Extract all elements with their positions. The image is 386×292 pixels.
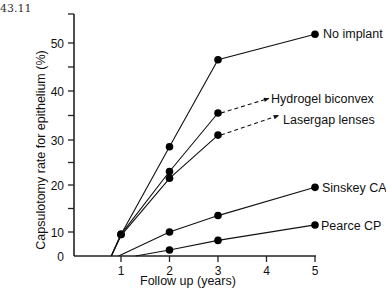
series-hydrogel-biconvex	[111, 98, 269, 256]
data-point-marker	[214, 109, 222, 117]
x-tick-label: 5	[312, 264, 319, 278]
data-point-marker	[166, 174, 174, 182]
x-axis-title: Follow up (years)	[140, 274, 236, 288]
projection-arrow	[221, 98, 269, 113]
data-point-marker	[166, 168, 174, 176]
y-tick-label: 50	[51, 37, 65, 51]
series-label-lasergap-lenses: Lasergap lenses	[283, 113, 375, 127]
y-tick-label: 0	[57, 250, 64, 264]
x-tick-label: 1	[118, 264, 125, 278]
series-labels: No implantHydrogel biconvexLasergap lens…	[271, 27, 386, 233]
data-point-marker	[214, 237, 222, 245]
series-line	[119, 187, 315, 256]
series-pearce-cp	[136, 221, 319, 256]
data-point-marker	[166, 143, 174, 151]
series-label-no-implant: No implant	[323, 27, 383, 41]
data-point-marker	[214, 212, 222, 220]
projection-arrow	[221, 116, 279, 136]
y-tick-label: 20	[51, 179, 65, 193]
series-line	[136, 225, 315, 256]
x-tick-label: 4	[263, 264, 270, 278]
series-sinskey-ca	[119, 184, 319, 256]
line-chart: 0102030405012345 No implantHydrogel bico…	[0, 0, 386, 292]
data-point-marker	[214, 56, 222, 64]
series-label-sinskey-ca: Sinskey CA	[322, 181, 386, 195]
series-no-implant	[111, 31, 319, 257]
y-tick-label: 10	[51, 226, 65, 240]
series-label-hydrogel-biconvex: Hydrogel biconvex	[271, 92, 375, 106]
y-tick-label: 40	[51, 85, 65, 99]
data-point-marker	[311, 31, 319, 39]
data-point-marker	[311, 184, 319, 192]
data-point-marker	[311, 221, 319, 229]
series-line	[111, 34, 315, 256]
data-point-marker	[166, 246, 174, 254]
y-axis-title: Capsulotomy rate for epithelium (%)	[34, 50, 48, 249]
series-lines	[111, 31, 319, 257]
axes: 0102030405012345	[51, 14, 319, 278]
series-label-pearce-cp: Pearce CP	[321, 219, 381, 233]
data-point-marker	[214, 131, 222, 139]
data-point-marker	[166, 228, 174, 236]
series-line	[111, 135, 218, 256]
y-tick-label: 30	[51, 134, 65, 148]
